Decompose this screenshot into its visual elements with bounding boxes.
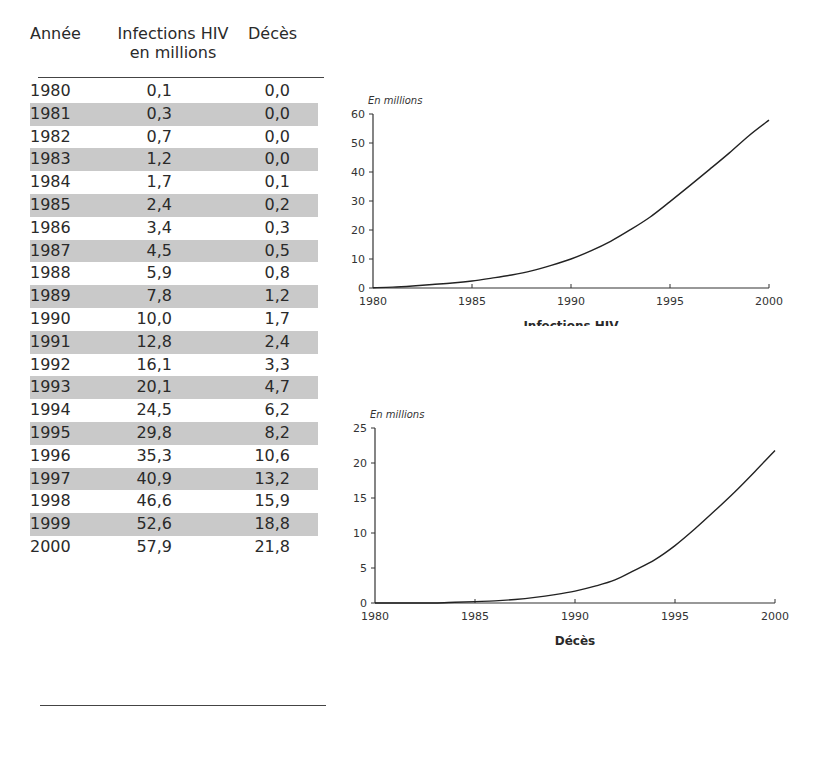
- table-row: 19800,10,0: [30, 80, 318, 103]
- x-tick-label: 1985: [461, 610, 489, 623]
- x-tick-label: 1990: [561, 610, 589, 623]
- cell-infections: 1,2: [120, 148, 172, 171]
- y-tick-label: 10: [353, 527, 367, 540]
- cell-deaths: 13,2: [242, 468, 290, 491]
- chart-title: Décès: [555, 634, 596, 648]
- header-divider: [38, 77, 324, 78]
- cell-deaths: 0,0: [242, 103, 290, 126]
- cell-year: 1993: [30, 376, 90, 399]
- table-row: 19831,20,0: [30, 148, 318, 171]
- cell-infections: 52,6: [120, 513, 172, 536]
- header-infections-line2: en millions: [130, 43, 217, 62]
- table-row: 200057,921,8: [30, 536, 318, 559]
- cell-infections: 10,0: [120, 308, 172, 331]
- cell-deaths: 3,3: [242, 354, 290, 377]
- x-tick-label: 1990: [557, 295, 585, 308]
- cell-deaths: 2,4: [242, 331, 290, 354]
- cell-infections: 46,6: [120, 490, 172, 513]
- cell-deaths: 18,8: [242, 513, 290, 536]
- table-row: 19841,70,1: [30, 171, 318, 194]
- cell-deaths: 15,9: [242, 490, 290, 513]
- y-tick-label: 20: [353, 457, 367, 470]
- header-infections: Infections HIV en millions: [108, 24, 238, 62]
- cell-year: 1998: [30, 490, 90, 513]
- x-tick-label: 1995: [656, 295, 684, 308]
- cell-year: 1997: [30, 468, 90, 491]
- cell-deaths: 4,7: [242, 376, 290, 399]
- cell-infections: 20,1: [120, 376, 172, 399]
- y-tick-label: 0: [358, 282, 365, 295]
- x-tick-label: 1995: [661, 610, 689, 623]
- x-tick-label: 2000: [755, 295, 783, 308]
- cell-infections: 0,1: [120, 80, 172, 103]
- cell-year: 1986: [30, 217, 90, 240]
- cell-infections: 12,8: [120, 331, 172, 354]
- y-tick-label: 20: [351, 224, 365, 237]
- cell-deaths: 0,2: [242, 194, 290, 217]
- x-tick-label: 1985: [458, 295, 486, 308]
- cell-deaths: 1,7: [242, 308, 290, 331]
- table-row: 199320,14,7: [30, 376, 318, 399]
- cell-infections: 40,9: [120, 468, 172, 491]
- cell-infections: 4,5: [120, 240, 172, 263]
- cell-year: 1995: [30, 422, 90, 445]
- header-year: Année: [30, 24, 81, 43]
- table-row: 19810,30,0: [30, 103, 318, 126]
- y-tick-label: 0: [360, 597, 367, 610]
- y-tick-label: 5: [360, 562, 367, 575]
- cell-year: 1991: [30, 331, 90, 354]
- cell-infections: 24,5: [120, 399, 172, 422]
- cell-deaths: 1,2: [242, 285, 290, 308]
- data-line: [375, 450, 775, 603]
- cell-year: 2000: [30, 536, 90, 559]
- cell-infections: 35,3: [120, 445, 172, 468]
- cell-deaths: 10,6: [242, 445, 290, 468]
- table-row: 199952,618,8: [30, 513, 318, 536]
- cell-deaths: 6,2: [242, 399, 290, 422]
- infections-chart-plot: En millions01020304050601980198519901995…: [340, 86, 800, 326]
- unit-label: En millions: [368, 95, 422, 106]
- x-tick-label: 1980: [361, 610, 389, 623]
- deaths-chart-plot: En millions05101520251980198519901995200…: [340, 400, 800, 660]
- cell-deaths: 21,8: [242, 536, 290, 559]
- cell-infections: 29,8: [120, 422, 172, 445]
- cell-infections: 57,9: [120, 536, 172, 559]
- table-row: 199846,615,9: [30, 490, 318, 513]
- cell-year: 1984: [30, 171, 90, 194]
- x-tick-label: 1980: [359, 295, 387, 308]
- y-tick-label: 40: [351, 166, 365, 179]
- y-tick-label: 30: [351, 195, 365, 208]
- table-row: 19852,40,2: [30, 194, 318, 217]
- y-tick-label: 15: [353, 492, 367, 505]
- chart-title: Infections HIV: [523, 319, 619, 326]
- table-row: 19897,81,2: [30, 285, 318, 308]
- table-row: 199529,88,2: [30, 422, 318, 445]
- table-row: 19820,70,0: [30, 126, 318, 149]
- deaths-chart: En millions05101520251980198519901995200…: [340, 400, 800, 660]
- cell-infections: 5,9: [120, 262, 172, 285]
- cell-infections: 3,4: [120, 217, 172, 240]
- cell-deaths: 0,3: [242, 217, 290, 240]
- data-line: [373, 120, 769, 288]
- cell-deaths: 0,0: [242, 80, 290, 103]
- cell-year: 1996: [30, 445, 90, 468]
- table-row: 199112,82,4: [30, 331, 318, 354]
- table-row: 19863,40,3: [30, 217, 318, 240]
- table-row: 19874,50,5: [30, 240, 318, 263]
- table-row: 199010,01,7: [30, 308, 318, 331]
- table-row: 199740,913,2: [30, 468, 318, 491]
- header-infections-line1: Infections HIV: [118, 24, 229, 43]
- table-bottom-divider: [40, 705, 326, 706]
- cell-year: 1987: [30, 240, 90, 263]
- cell-year: 1982: [30, 126, 90, 149]
- header-deaths: Décès: [248, 24, 297, 43]
- cell-infections: 7,8: [120, 285, 172, 308]
- unit-label: En millions: [370, 409, 424, 420]
- y-tick-label: 60: [351, 108, 365, 121]
- table-body: 19800,10,019810,30,019820,70,019831,20,0…: [30, 80, 318, 559]
- infections-chart: En millions01020304050601980198519901995…: [340, 86, 800, 326]
- cell-year: 1994: [30, 399, 90, 422]
- cell-deaths: 0,0: [242, 126, 290, 149]
- table-header: Année Infections HIV en millions Décès: [20, 24, 338, 74]
- cell-year: 1985: [30, 194, 90, 217]
